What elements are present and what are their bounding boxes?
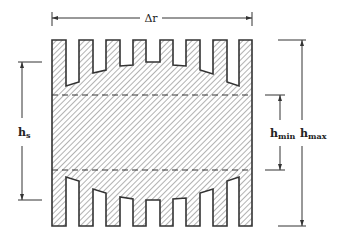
hmin-label: hmin [270, 127, 296, 141]
hmax-label: hmax [300, 127, 327, 141]
hmin-dimension: hmin [265, 95, 296, 170]
cross-section-diagram: Δr hs hmin hmax [0, 0, 340, 241]
width-dimension: Δr [52, 12, 252, 26]
hatched-section-body [52, 40, 252, 226]
hs-dimension: hs [18, 62, 42, 200]
hs-label: hs [18, 126, 31, 140]
width-label: Δr [144, 12, 158, 25]
